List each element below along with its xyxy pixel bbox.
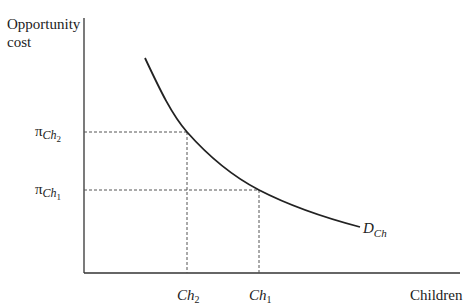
- reference-lines: [84, 132, 259, 273]
- chart: Opportunity cost Children DCh πCh2 πCh1 …: [0, 0, 476, 308]
- y-axis-label-line1: Opportunity: [7, 16, 81, 32]
- y-tick-pi-ch2: πCh2: [35, 123, 61, 144]
- x-axis-label: Children: [410, 287, 463, 303]
- y-axis-label-line2: cost: [7, 34, 32, 50]
- x-tick-ch1: Ch1: [249, 287, 272, 305]
- curve-label: DCh: [362, 220, 387, 239]
- x-tick-ch2: Ch2: [177, 287, 200, 305]
- demand-curve: [145, 58, 360, 227]
- y-tick-pi-ch1: πCh1: [35, 181, 61, 202]
